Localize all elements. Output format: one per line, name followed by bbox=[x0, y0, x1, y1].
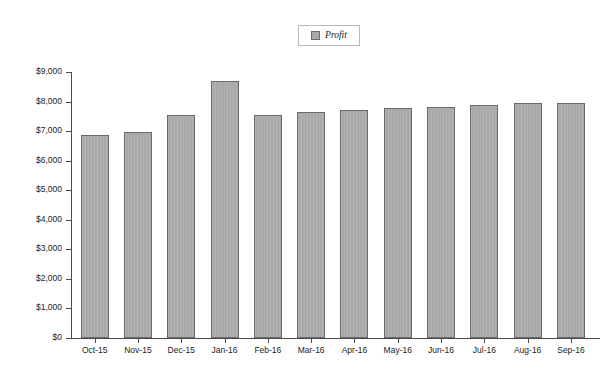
bar-profit-jun-16 bbox=[427, 107, 455, 338]
y-axis-tick bbox=[66, 131, 72, 132]
x-axis-tick bbox=[268, 338, 269, 343]
profit-bar-chart: Profit $9,000$8,000$7,000$6,000$5,000$4,… bbox=[0, 0, 608, 376]
y-axis-tick bbox=[66, 72, 72, 73]
y-axis-tick-label-wrap: $2,000 bbox=[0, 274, 62, 284]
y-axis-tick-label: $7,000 bbox=[6, 126, 62, 135]
bar-profit-mar-16 bbox=[297, 112, 325, 338]
bar-profit-nov-15 bbox=[124, 132, 152, 338]
y-axis-line bbox=[71, 72, 72, 339]
x-axis-tick bbox=[398, 338, 399, 343]
x-axis-tick bbox=[311, 338, 312, 343]
y-axis-tick-label-wrap: $6,000 bbox=[0, 156, 62, 166]
bar-profit-oct-15 bbox=[81, 135, 109, 338]
x-axis-tick-label: Sep-16 bbox=[546, 346, 596, 355]
y-axis-tick-label-wrap: $1,000 bbox=[0, 303, 62, 313]
y-axis-tick bbox=[66, 161, 72, 162]
y-axis-tick-label: $9,000 bbox=[6, 67, 62, 76]
x-axis-tick bbox=[528, 338, 529, 343]
y-axis-tick-label-wrap: $9,000 bbox=[0, 67, 62, 77]
y-axis-tick bbox=[66, 190, 72, 191]
x-axis-tick bbox=[95, 338, 96, 343]
y-axis-tick-label: $6,000 bbox=[6, 156, 62, 165]
y-axis-tick-label-wrap: $5,000 bbox=[0, 185, 62, 195]
y-axis-tick bbox=[66, 279, 72, 280]
y-axis-tick-label: $3,000 bbox=[6, 244, 62, 253]
y-axis-tick-label: $8,000 bbox=[6, 97, 62, 106]
x-axis-tick bbox=[354, 338, 355, 343]
y-axis-tick-label: $5,000 bbox=[6, 185, 62, 194]
y-axis-tick-label-wrap: $3,000 bbox=[0, 244, 62, 254]
bar-profit-dec-15 bbox=[167, 115, 195, 338]
y-axis-tick-label-wrap: $8,000 bbox=[0, 97, 62, 107]
y-axis-tick bbox=[66, 338, 72, 339]
y-axis-tick-label: $1,000 bbox=[6, 303, 62, 312]
y-axis-tick-label-wrap: $7,000 bbox=[0, 126, 62, 136]
x-axis-tick bbox=[138, 338, 139, 343]
y-axis-tick bbox=[66, 308, 72, 309]
x-axis-tick bbox=[181, 338, 182, 343]
plot-area: $9,000$8,000$7,000$6,000$5,000$4,000$3,0… bbox=[0, 0, 608, 376]
bar-profit-may-16 bbox=[384, 108, 412, 338]
x-axis-tick bbox=[441, 338, 442, 343]
y-axis-tick-label: $2,000 bbox=[6, 274, 62, 283]
x-axis-tick bbox=[225, 338, 226, 343]
bar-profit-feb-16 bbox=[254, 115, 282, 338]
y-axis-tick-label: $4,000 bbox=[6, 215, 62, 224]
y-axis-tick-label-wrap: $4,000 bbox=[0, 215, 62, 225]
x-axis-tick bbox=[571, 338, 572, 343]
bar-profit-aug-16 bbox=[514, 103, 542, 338]
bar-profit-jul-16 bbox=[470, 105, 498, 338]
y-axis-tick bbox=[66, 220, 72, 221]
x-axis-line bbox=[71, 338, 600, 339]
y-axis-tick-label: $0 bbox=[6, 333, 62, 342]
x-axis-tick bbox=[484, 338, 485, 343]
y-axis-tick bbox=[66, 102, 72, 103]
y-axis-tick bbox=[66, 249, 72, 250]
bar-profit-apr-16 bbox=[340, 110, 368, 338]
bar-profit-jan-16 bbox=[211, 81, 239, 338]
bar-profit-sep-16 bbox=[557, 103, 585, 338]
y-axis-tick-label-wrap: $0 bbox=[0, 333, 62, 343]
